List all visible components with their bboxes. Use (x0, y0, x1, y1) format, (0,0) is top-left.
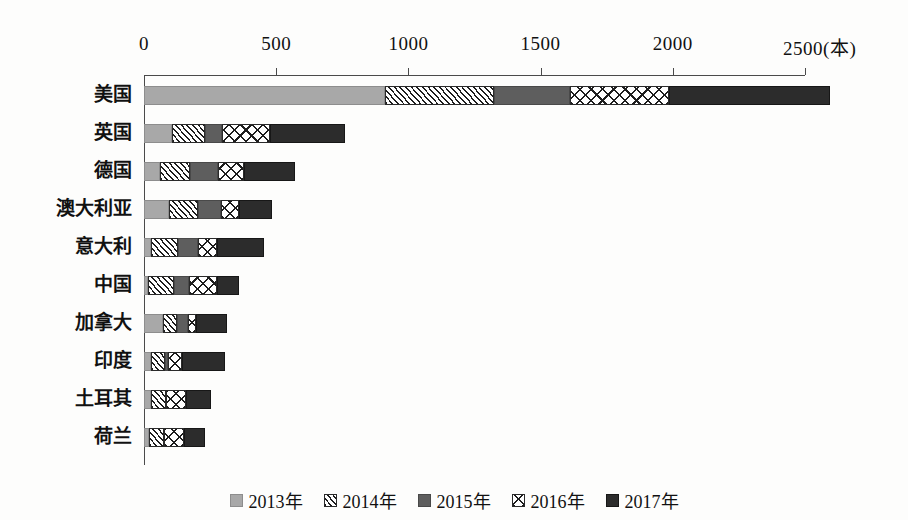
bar-segment-7-4 (182, 352, 224, 371)
bar-segment-2-3 (218, 162, 244, 181)
bar-segment-3-3 (221, 200, 240, 219)
bar-segment-1-2 (205, 124, 222, 143)
bar-segment-4-1 (151, 238, 179, 257)
bar-segment-5-2 (174, 276, 189, 295)
legend-label-0: 2013年 (249, 487, 303, 513)
legend-label-1: 2014年 (343, 487, 397, 513)
category-label-7: 印度 (94, 351, 132, 370)
bar-row (144, 276, 805, 295)
legend-swatch-icon-2 (418, 494, 431, 507)
bar-segment-9-1 (149, 428, 164, 447)
plot-area (144, 75, 805, 465)
category-label-0: 美国 (94, 85, 132, 104)
bar-row (144, 314, 805, 333)
bar-row (144, 428, 805, 447)
bar-segment-6-0 (144, 314, 163, 333)
x-axis-tick-5 (805, 68, 806, 75)
x-axis-tick-1 (276, 68, 277, 75)
category-axis-labels: 美国英国德国澳大利亚意大利中国加拿大印度土耳其荷兰 (0, 75, 140, 465)
bar-row (144, 352, 805, 371)
bar-segment-4-3 (198, 238, 217, 257)
bar-segment-4-0 (144, 238, 151, 257)
bar-segment-2-0 (144, 162, 160, 181)
bar-segment-8-0 (144, 390, 151, 409)
x-tick-label-2: 1000 (388, 33, 428, 55)
bar-row (144, 238, 805, 257)
x-tick-label-3: 1500 (521, 33, 561, 55)
bar-segment-3-0 (144, 200, 169, 219)
bar-segment-8-3 (166, 390, 186, 409)
bar-segment-6-4 (196, 314, 228, 333)
bar-segment-2-1 (160, 162, 190, 181)
x-axis-tick-4 (673, 68, 674, 75)
x-axis-line (144, 75, 805, 76)
bar-segment-3-1 (169, 200, 198, 219)
legend-swatch-icon-4 (606, 494, 619, 507)
bar-segment-7-3 (168, 352, 183, 371)
legend-swatch-icon-3 (512, 494, 525, 507)
category-label-8: 土耳其 (75, 389, 132, 408)
bar-segment-1-4 (270, 124, 345, 143)
bar-segment-5-3 (189, 276, 217, 295)
category-label-3: 澳大利亚 (56, 199, 132, 218)
legend-item-1[interactable]: 2014年 (324, 487, 397, 513)
bar-segment-2-4 (244, 162, 294, 181)
legend-item-3[interactable]: 2016年 (512, 487, 585, 513)
legend-item-4[interactable]: 2017年 (606, 487, 679, 513)
legend-item-0[interactable]: 2013年 (230, 487, 303, 513)
category-label-4: 意大利 (75, 237, 132, 256)
x-axis-tick-2 (408, 68, 409, 75)
bar-segment-3-4 (239, 200, 272, 219)
x-tick-label-5: 2500(本) (783, 33, 856, 60)
bar-segment-0-1 (385, 86, 495, 105)
bar-segment-1-1 (172, 124, 205, 143)
category-label-5: 中国 (94, 275, 132, 294)
bar-segment-4-4 (217, 238, 265, 257)
bar-segment-2-2 (190, 162, 218, 181)
bar-segment-1-3 (222, 124, 270, 143)
bar-segment-7-0 (144, 352, 151, 371)
bar-segment-7-1 (151, 352, 166, 371)
bar-segment-5-1 (148, 276, 174, 295)
bar-segment-0-4 (669, 86, 830, 105)
bar-segment-0-2 (494, 86, 569, 105)
category-label-9: 荷兰 (94, 427, 132, 446)
bar-segment-6-2 (177, 314, 188, 333)
bar-segment-9-3 (164, 428, 184, 447)
x-tick-label-1: 500 (261, 33, 291, 55)
category-label-2: 德国 (94, 161, 132, 180)
bar-segment-1-0 (144, 124, 172, 143)
legend-label-3: 2016年 (531, 487, 585, 513)
bar-segment-3-2 (198, 200, 220, 219)
legend-swatch-icon-1 (324, 494, 337, 507)
bar-row (144, 162, 805, 181)
x-tick-label-0: 0 (139, 33, 149, 55)
bar-row (144, 200, 805, 219)
x-axis-tick-labels: 05001000150020002500(本) (0, 33, 908, 57)
x-axis-tick-3 (541, 68, 542, 75)
bar-row (144, 390, 805, 409)
bar-row (144, 124, 805, 143)
bar-row (144, 86, 805, 105)
category-label-1: 英国 (94, 123, 132, 142)
legend-swatch-icon-0 (230, 494, 243, 507)
bar-segment-6-3 (188, 314, 196, 333)
chart-legend: 2013年2014年2015年2016年2017年 (0, 487, 908, 513)
bar-segment-4-2 (178, 238, 198, 257)
legend-item-2[interactable]: 2015年 (418, 487, 491, 513)
bar-segment-8-1 (151, 390, 167, 409)
bar-segment-0-0 (144, 86, 385, 105)
bar-segment-6-1 (163, 314, 178, 333)
bar-segment-9-4 (184, 428, 205, 447)
legend-label-4: 2017年 (625, 487, 679, 513)
bar-segment-5-4 (217, 276, 239, 295)
x-tick-label-4: 2000 (653, 33, 693, 55)
stacked-bar-chart: 05001000150020002500(本) 美国英国德国澳大利亚意大利中国加… (0, 0, 908, 520)
bar-segment-8-4 (186, 390, 211, 409)
legend-label-2: 2015年 (437, 487, 491, 513)
bar-segment-0-3 (570, 86, 669, 105)
category-label-6: 加拿大 (75, 313, 132, 332)
